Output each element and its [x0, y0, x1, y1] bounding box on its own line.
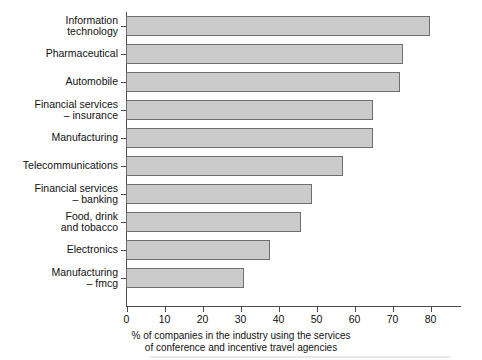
x-axis-line [126, 306, 461, 307]
bar [126, 184, 312, 204]
x-axis-tick-label: 30 [226, 313, 256, 325]
category-label: Telecommunications [0, 160, 118, 172]
x-axis-tick-label: 20 [188, 313, 218, 325]
category-label: Pharmaceutical [0, 48, 118, 60]
bar [126, 72, 400, 92]
x-axis-tick-label: 10 [150, 313, 180, 325]
category-label: Financial services – banking [0, 183, 118, 206]
bar [126, 268, 244, 288]
category-label: Manufacturing – fmcg [0, 267, 118, 290]
x-axis-tick [203, 307, 204, 312]
bar [126, 212, 301, 232]
scan-artifact [150, 356, 450, 358]
x-axis-tick-label: 60 [340, 313, 370, 325]
x-axis-tick [241, 307, 242, 312]
category-label: Financial services – insurance [0, 99, 118, 122]
category-label: Manufacturing [0, 132, 118, 144]
x-axis-tick [127, 307, 128, 312]
x-axis-tick-label: 0 [112, 313, 142, 325]
category-label: Automobile [0, 76, 118, 88]
category-label: Information technology [0, 15, 118, 38]
x-axis-caption: % of companies in the industry using the… [0, 330, 482, 353]
category-label: Food, drink and tobacco [0, 211, 118, 234]
x-axis-tick-label: 40 [264, 313, 294, 325]
bar [126, 240, 270, 260]
x-axis-tick-label: 70 [378, 313, 408, 325]
x-axis-tick [393, 307, 394, 312]
bar [126, 100, 373, 120]
x-axis-tick-label: 50 [302, 313, 332, 325]
x-axis-tick [431, 307, 432, 312]
x-axis-tick [317, 307, 318, 312]
bar [126, 128, 373, 148]
x-axis-tick [355, 307, 356, 312]
caption-line-1: % of companies in the industry using the… [0, 330, 482, 342]
x-axis-tick [279, 307, 280, 312]
x-axis-tick [165, 307, 166, 312]
bar [126, 44, 403, 64]
bar-chart: Information technologyPharmaceuticalAuto… [0, 0, 482, 360]
category-label: Electronics [0, 244, 118, 256]
caption-line-2: of conference and incentive travel agenc… [0, 342, 482, 354]
bar [126, 156, 343, 176]
x-axis-tick-label: 80 [416, 313, 446, 325]
bar [126, 16, 430, 36]
